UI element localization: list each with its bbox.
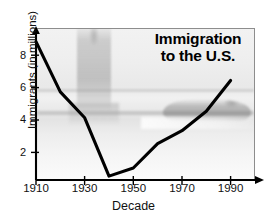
y-axis-label: Immigrants (in millions) xyxy=(26,0,38,150)
chart-title-line-1: Immigration xyxy=(146,30,250,47)
y-tick-label-4: 4 xyxy=(12,113,26,125)
x-tick-label-1990: 1990 xyxy=(214,182,248,194)
x-tick-label-1910: 1910 xyxy=(19,182,53,194)
statue-of-liberty-watermark xyxy=(77,28,111,111)
x-tick-label-1930: 1930 xyxy=(68,182,102,194)
x-tick-label-1970: 1970 xyxy=(165,182,199,194)
x-axis-arrow-icon xyxy=(255,176,264,184)
chart-title: Immigration to the U.S. xyxy=(146,30,250,65)
y-tick-label-2: 2 xyxy=(12,146,26,158)
x-tick-label-1950: 1950 xyxy=(116,182,150,194)
immigration-line-chart-figure: 8 6 4 2 1910 1930 1950 1970 1990 Immigra… xyxy=(0,0,267,220)
chart-title-line-2: to the U.S. xyxy=(146,47,250,64)
y-tick-label-8: 8 xyxy=(12,49,26,61)
horizon-watermark xyxy=(37,89,254,92)
y-tick-label-6: 6 xyxy=(12,81,26,93)
ship-wake-watermark xyxy=(141,117,255,129)
x-axis-label: Decade xyxy=(0,199,267,213)
